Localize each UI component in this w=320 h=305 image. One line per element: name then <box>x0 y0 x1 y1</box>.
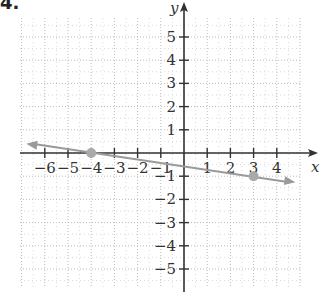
y-tick-label: −2 <box>154 190 176 208</box>
x-axis-label: x <box>311 158 320 176</box>
line-arrow-left-icon <box>26 141 38 150</box>
x-tick-label: −2 <box>127 159 149 177</box>
x-tick-label: −4 <box>80 159 102 177</box>
y-tick-label: 1 <box>166 121 176 139</box>
x-tick-label: −3 <box>103 159 125 177</box>
y-tick-label: 3 <box>166 74 176 92</box>
x-tick-label: −6 <box>34 159 56 177</box>
y-tick-label: −3 <box>154 214 176 232</box>
y-tick-label: 5 <box>166 28 176 46</box>
coordinate-plane: xy −6−5−4−3−2−1123454321−1−2−3−4−5 <box>0 0 320 305</box>
y-tick-label: −1 <box>154 167 176 185</box>
y-tick-label: 4 <box>166 51 176 69</box>
y-tick-label: −4 <box>154 237 176 255</box>
x-tick-label: −5 <box>57 159 79 177</box>
y-axis-label: y <box>169 0 179 17</box>
y-tick-label: −5 <box>154 260 176 278</box>
x-tick-label: 4 <box>272 159 282 177</box>
data-point <box>249 171 259 181</box>
y-tick-label: 2 <box>166 98 176 116</box>
x-tick-label: 1 <box>202 159 212 177</box>
data-point <box>86 148 96 158</box>
line-arrow-right-icon <box>284 176 296 185</box>
